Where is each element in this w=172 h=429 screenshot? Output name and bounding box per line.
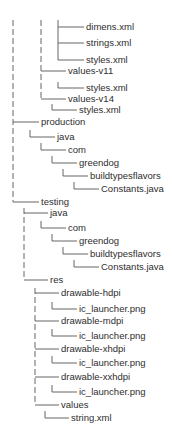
- tree-file-node: styles.xml: [79, 104, 121, 115]
- tree-file-node: strings.xml: [86, 37, 131, 48]
- tree-file-node: Constants.java: [101, 183, 164, 194]
- tree-folder-node: java: [57, 131, 74, 142]
- tree-folder-node: buildtypesflavors: [90, 248, 161, 259]
- tree-file-node: dimens.xml: [86, 21, 134, 32]
- tree-file-node: string.xml: [71, 412, 112, 423]
- tree-folder-node: drawable-hdpi: [61, 287, 121, 298]
- tree-file-node: ic_launcher.png: [79, 357, 146, 368]
- tree-file-node: styles.xml: [86, 82, 128, 93]
- directory-tree: dimens.xmlstrings.xmlstyles.xmlvalues-v1…: [0, 0, 172, 429]
- tree-file-node: ic_launcher.png: [79, 303, 146, 314]
- tree-folder-node: drawable-mdpi: [61, 315, 123, 326]
- tree-file-node: styles.xml: [86, 54, 128, 65]
- tree-folder-node: testing: [41, 196, 69, 207]
- tree-file-node: ic_launcher.png: [79, 386, 146, 397]
- tree-folder-node: res: [50, 274, 63, 285]
- tree-folder-node: java: [50, 207, 67, 218]
- tree-folder-node: greendog: [79, 235, 119, 246]
- tree-file-node: Constants.java: [101, 261, 164, 272]
- tree-file-node: ic_launcher.png: [79, 330, 146, 341]
- tree-folder-node: drawable-xhdpi: [61, 343, 125, 354]
- tree-folder-node: production: [41, 116, 85, 127]
- tree-folder-node: com: [68, 144, 86, 155]
- tree-folder-node: values-v14: [68, 93, 114, 104]
- tree-folder-node: drawable-xxhdpi: [61, 371, 130, 382]
- tree-folder-node: buildtypesflavors: [90, 170, 161, 181]
- tree-folder-node: values-v11: [68, 65, 113, 76]
- tree-folder-node: greendog: [79, 157, 119, 168]
- tree-folder-node: com: [68, 222, 86, 233]
- tree-folder-node: values: [61, 399, 88, 410]
